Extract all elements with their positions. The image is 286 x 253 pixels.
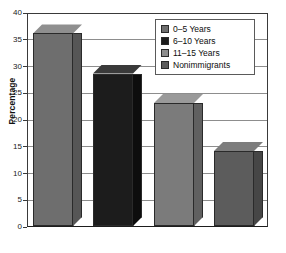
gridline-40 (28, 13, 267, 14)
bar-4-top-face (214, 142, 263, 151)
y-tick-label-35: 35 (0, 36, 22, 44)
bar-1-front-face (33, 33, 73, 226)
y-axis-title: Percentage (7, 65, 17, 137)
bar-4-front-face (214, 151, 254, 226)
legend-label-2: 6–10 Years (173, 37, 216, 46)
bar-4 (214, 151, 254, 226)
bar-2-front-face (93, 74, 133, 226)
legend-label-4: Nonimmigrants (173, 61, 230, 70)
y-tick-label-0: 0 (0, 223, 22, 231)
legend-swatch-11-15-years (161, 49, 169, 57)
bar-1-side-face (73, 33, 82, 226)
legend-label-3: 11–15 Years (173, 49, 220, 58)
bar-3-side-face (194, 103, 203, 226)
bar-3 (154, 103, 194, 226)
chart-legend: 0–5 Years6–10 Years11–15 YearsNonimmigra… (155, 19, 255, 75)
legend-item-4[interactable]: Nonimmigrants (161, 59, 250, 71)
bar-1-top-face (33, 24, 82, 33)
bar-3-front-face (154, 103, 194, 226)
y-tick-label-5: 5 (0, 196, 22, 204)
legend-swatch-nonimmigrants (161, 61, 169, 69)
bar-2-side-face (133, 74, 142, 226)
bar-chart: Percentage 4035302520151050 0–5 Years6–1… (0, 0, 286, 253)
legend-label-1: 0–5 Years (173, 25, 211, 34)
legend-swatch-0-5-years (161, 25, 169, 33)
y-tick-label-10: 10 (0, 170, 22, 178)
bar-4-side-face (254, 151, 263, 226)
y-tick-label-40: 40 (0, 9, 22, 17)
legend-item-3[interactable]: 11–15 Years (161, 47, 250, 59)
legend-item-2[interactable]: 6–10 Years (161, 35, 250, 47)
y-tick-label-30: 30 (0, 63, 22, 71)
bar-2 (93, 74, 133, 226)
legend-swatch-6-10-years (161, 37, 169, 45)
y-tick-label-20: 20 (0, 116, 22, 124)
bar-3-top-face (154, 94, 203, 103)
y-tick-label-15: 15 (0, 143, 22, 151)
y-tick-label-25: 25 (0, 89, 22, 97)
legend-item-1[interactable]: 0–5 Years (161, 23, 250, 35)
bar-1 (33, 33, 73, 226)
